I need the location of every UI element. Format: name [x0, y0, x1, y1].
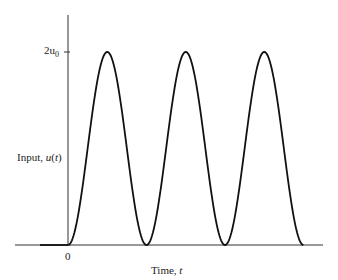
x-zero-text: 0: [65, 250, 71, 262]
x-zero-label: 0: [65, 250, 71, 262]
chart-canvas: [0, 0, 338, 280]
y-axis-paren-close: ): [58, 151, 62, 163]
x-axis-label-var: t: [179, 264, 182, 276]
y-axis-label-prefix: Input,: [17, 151, 46, 163]
y-axis-label: Input, u(t): [17, 151, 62, 163]
x-axis-label-prefix: Time,: [151, 264, 179, 276]
y-tick-text: 2u: [44, 44, 55, 56]
input-curve: [68, 52, 304, 245]
y-tick-subscript: 0: [55, 50, 59, 59]
y-tick-label: 2u0: [44, 44, 59, 59]
x-axis-label: Time, t: [151, 264, 182, 276]
